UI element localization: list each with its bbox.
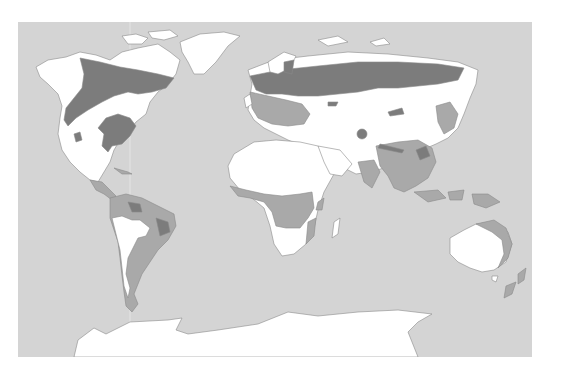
world-map [18, 22, 532, 357]
map-canvas [18, 22, 532, 357]
